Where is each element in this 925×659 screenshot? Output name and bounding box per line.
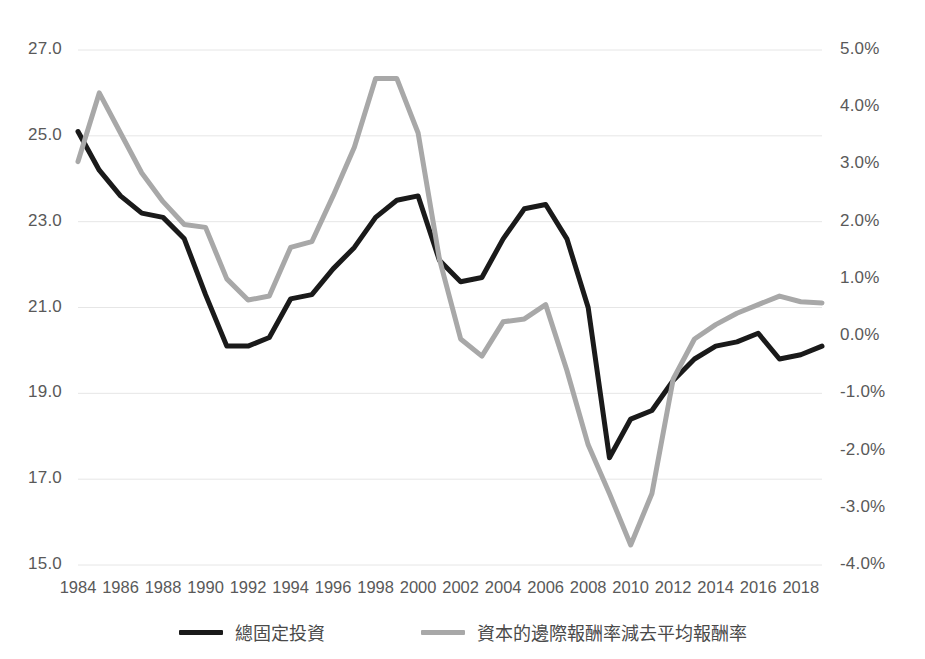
x-axis-tick-label: 2002	[438, 578, 484, 597]
right-axis-tick-label: -2.0%	[840, 440, 920, 460]
x-axis-tick-label: 2000	[395, 578, 441, 597]
x-axis-tick-label: 1994	[268, 578, 314, 597]
x-axis-tick-label: 2016	[735, 578, 781, 597]
chart-legend: 總固定投資 資本的邊際報酬率減去平均報酬率	[0, 612, 925, 652]
x-axis-tick-label: 2018	[778, 578, 824, 597]
legend-item-marginal-minus-average-return: 資本的邊際報酬率減去平均報酬率	[421, 619, 747, 645]
right-axis-tick-label: -3.0%	[840, 497, 920, 517]
chart-plot-area	[0, 0, 925, 659]
x-axis-tick-label: 1984	[55, 578, 101, 597]
x-axis-tick-label: 2010	[608, 578, 654, 597]
left-axis-tick-label: 23.0	[0, 211, 62, 231]
left-axis-tick-label: 21.0	[0, 297, 62, 317]
x-axis-tick-label: 1990	[183, 578, 229, 597]
right-axis-tick-label: 5.0%	[840, 39, 920, 59]
right-axis-tick-label: 3.0%	[840, 153, 920, 173]
legend-label-marginal-minus-average-return: 資本的邊際報酬率減去平均報酬率	[477, 619, 747, 645]
right-axis-tick-label: 2.0%	[840, 211, 920, 231]
x-axis-tick-label: 2004	[480, 578, 526, 597]
right-axis-tick-label: 1.0%	[840, 268, 920, 288]
x-axis-tick-label: 1988	[140, 578, 186, 597]
chart-container: 15.017.019.021.023.025.027.0 -4.0%-3.0%-…	[0, 0, 925, 659]
left-axis-tick-label: 27.0	[0, 39, 62, 59]
legend-label-total-fixed-investment: 總固定投資	[235, 619, 325, 645]
series-line-1	[78, 79, 822, 545]
x-axis-tick-label: 1998	[353, 578, 399, 597]
legend-swatch-black	[179, 630, 223, 635]
x-axis-tick-label: 1992	[225, 578, 271, 597]
left-axis-tick-label: 19.0	[0, 382, 62, 402]
right-axis-tick-label: -1.0%	[840, 382, 920, 402]
x-axis-tick-label: 2014	[693, 578, 739, 597]
right-axis-tick-label: 4.0%	[840, 96, 920, 116]
x-axis-tick-label: 2008	[565, 578, 611, 597]
left-axis-tick-label: 15.0	[0, 554, 62, 574]
x-axis-tick-label: 1996	[310, 578, 356, 597]
x-axis-tick-label: 2006	[523, 578, 569, 597]
left-axis-tick-label: 25.0	[0, 125, 62, 145]
series-paths-group	[78, 79, 822, 545]
x-axis-tick-label: 1986	[98, 578, 144, 597]
x-axis-tick-label: 2012	[650, 578, 696, 597]
legend-item-total-fixed-investment: 總固定投資	[179, 619, 325, 645]
right-axis-tick-label: 0.0%	[840, 325, 920, 345]
legend-swatch-gray	[421, 630, 465, 635]
left-axis-tick-label: 17.0	[0, 468, 62, 488]
right-axis-tick-label: -4.0%	[840, 554, 920, 574]
